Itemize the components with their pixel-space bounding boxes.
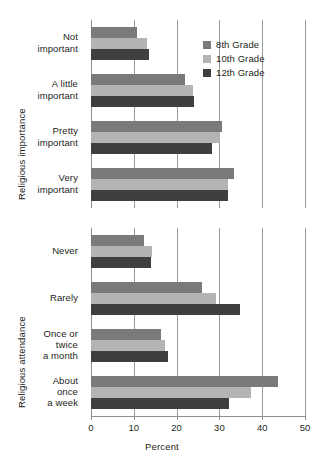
category-label-text: Never: [0, 245, 78, 256]
category-label-text: Notimportant: [0, 31, 78, 53]
x-axis-line: [91, 416, 305, 417]
legend-swatch-icon: [203, 41, 211, 49]
bar: [91, 304, 240, 315]
bar: [91, 121, 222, 132]
bar: [91, 168, 234, 179]
x-tick: [91, 416, 92, 420]
legend-label: 8th Grade: [216, 39, 259, 50]
bar: [91, 340, 165, 351]
category-label: A littleimportant: [0, 78, 86, 100]
bar: [91, 74, 185, 85]
bar-group: [91, 27, 305, 60]
bar-group: [91, 235, 305, 268]
bar: [91, 27, 137, 38]
x-tick: [177, 416, 178, 420]
religious-importance-attendance-bar-chart: Religious importance Religious attendanc…: [0, 0, 324, 460]
bar: [91, 235, 144, 246]
legend-swatch-icon: [203, 55, 211, 63]
category-label-text: Once ortwicea month: [0, 328, 78, 362]
legend-label: 12th Grade: [216, 67, 265, 78]
bar-group: [91, 376, 305, 409]
bar: [91, 257, 151, 268]
x-tick-label: 10: [119, 422, 149, 433]
bar: [91, 96, 194, 107]
x-tick: [219, 416, 220, 420]
bar: [91, 398, 229, 409]
panel-religious-importance: [91, 20, 305, 208]
category-label: Aboutoncea week: [0, 375, 86, 409]
x-tick: [262, 416, 263, 420]
x-tick-label: 50: [290, 422, 320, 433]
bar: [91, 85, 193, 96]
legend-label: 10th Grade: [216, 53, 265, 64]
bar: [91, 143, 212, 154]
bar: [91, 246, 152, 257]
category-label: Once ortwicea month: [0, 328, 86, 362]
x-tick-label: 20: [162, 422, 192, 433]
bar: [91, 376, 278, 387]
gridline-50: [305, 228, 306, 416]
category-label: Never: [0, 245, 86, 256]
legend-item: 12th Grade: [203, 66, 265, 79]
category-label-text: Aboutoncea week: [0, 375, 78, 409]
bar-group: [91, 168, 305, 201]
category-label-text: Veryimportant: [0, 172, 78, 194]
x-tick-label: 30: [204, 422, 234, 433]
bar: [91, 179, 228, 190]
category-label: Prettyimportant: [0, 125, 86, 147]
x-tick: [134, 416, 135, 420]
legend-item: 8th Grade: [203, 38, 265, 51]
legend-item: 10th Grade: [203, 52, 265, 65]
x-tick: [305, 416, 306, 420]
category-label-text: Rarely: [0, 292, 78, 303]
bar-group: [91, 74, 305, 107]
category-label: Veryimportant: [0, 172, 86, 194]
bar: [91, 282, 202, 293]
category-label: Rarely: [0, 292, 86, 303]
bar: [91, 329, 161, 340]
x-tick-label: 0: [76, 422, 106, 433]
bar: [91, 387, 251, 398]
category-label: Notimportant: [0, 31, 86, 53]
legend-swatch-icon: [203, 69, 211, 77]
bar-group: [91, 329, 305, 362]
bar: [91, 38, 147, 49]
panel-religious-attendance: [91, 228, 305, 416]
gridline-50: [305, 20, 306, 208]
category-label-text: Prettyimportant: [0, 125, 78, 147]
bar-group: [91, 121, 305, 154]
bar: [91, 351, 168, 362]
legend: 8th Grade10th Grade12th Grade: [203, 38, 265, 80]
bar: [91, 190, 228, 201]
bar: [91, 132, 220, 143]
category-label-text: A littleimportant: [0, 78, 78, 100]
bar: [91, 49, 149, 60]
bar-group: [91, 282, 305, 315]
x-tick-label: 40: [247, 422, 277, 433]
bar: [91, 293, 216, 304]
x-axis-title: Percent: [0, 441, 324, 452]
